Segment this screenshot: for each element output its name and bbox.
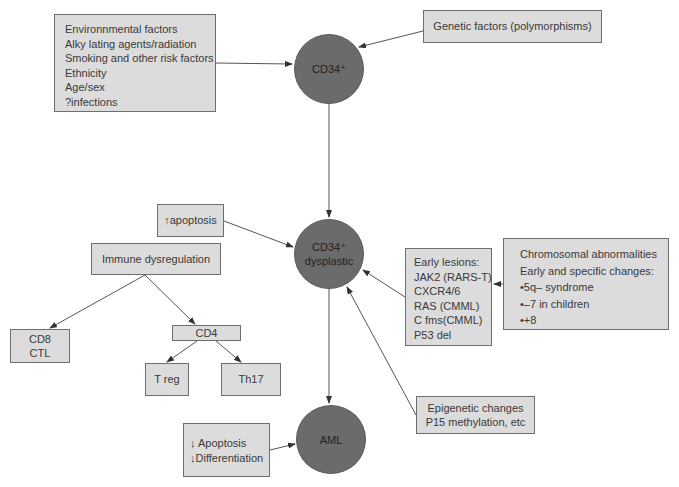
- early-line-1: Early lesions:: [414, 255, 491, 270]
- aml-node: AML: [296, 405, 366, 474]
- env-line-3: Smoking and other risk factors: [65, 51, 215, 66]
- chromosomal-abnormalities-box: Chromosomal abnormalities Early and spec…: [503, 238, 669, 330]
- aml-label: AML: [320, 433, 343, 447]
- th17-label: Th17: [238, 372, 263, 387]
- cd34-label: CD34⁺: [312, 62, 346, 76]
- early-lesions-box: Early lesions: JAK2 (RARS-T) CXCR4/6 RAS…: [405, 248, 492, 346]
- genetic-factors-box: Genetic factors (polymorphisms): [423, 10, 602, 43]
- env-line-2: Alky lating agents/radiation: [65, 37, 215, 52]
- th17-box: Th17: [221, 363, 281, 396]
- increased-apoptosis-label: ↑apoptosis: [164, 213, 217, 228]
- chrom-line-3: •5q– syndrome: [520, 279, 668, 296]
- cd4-label: CD4: [195, 326, 217, 341]
- cd8-ctl-box: CD8 CTL: [10, 329, 70, 363]
- env-line-6: ?infections: [65, 95, 215, 110]
- cd4-box: CD4: [172, 325, 241, 341]
- epi-line-2: P15 methylation, etc: [426, 415, 526, 430]
- cd8-line-1: CD8: [29, 332, 51, 347]
- dec-line-2: ↓Differentiation: [190, 451, 269, 466]
- immune-dysregulation-label: Immune dysregulation: [102, 252, 210, 267]
- increased-apoptosis-box: ↑apoptosis: [157, 204, 224, 237]
- early-line-4: RAS (CMML): [414, 299, 491, 314]
- env-line-5: Age/sex: [65, 80, 215, 95]
- dec-line-1: ↓ Apoptosis: [190, 436, 269, 451]
- environmental-factors-box: Environnmental factors Alky lating agent…: [54, 14, 216, 112]
- chrom-line-2: Early and specific changes:: [520, 263, 668, 280]
- chrom-line-5: •+8: [520, 312, 668, 329]
- treg-box: T reg: [145, 363, 189, 396]
- early-line-5: C fms(CMML): [414, 313, 491, 328]
- cd8-line-2: CTL: [30, 346, 51, 361]
- chrom-line-4: •–7 in children: [520, 296, 668, 313]
- env-line-4: Ethnicity: [65, 66, 215, 81]
- treg-label: T reg: [154, 372, 179, 387]
- decreased-apoptosis-differentiation-box: ↓ Apoptosis ↓Differentiation: [183, 423, 270, 477]
- early-line-6: P53 del: [414, 328, 491, 343]
- chrom-line-1: Chromosomal abnormalities: [520, 246, 668, 263]
- cd34-dysplastic-line-2: dysplastic: [305, 254, 353, 268]
- cd34-node: CD34⁺: [294, 34, 364, 104]
- genetic-label: Genetic factors (polymorphisms): [433, 19, 591, 34]
- early-line-2: JAK2 (RARS-T): [414, 270, 491, 285]
- epi-line-1: Epigenetic changes: [427, 401, 523, 416]
- cd34-dysplastic-node: CD34⁺ dysplastic: [294, 219, 364, 289]
- env-line-1: Environnmental factors: [65, 22, 215, 37]
- early-line-3: CXCR4/6: [414, 284, 491, 299]
- immune-dysregulation-box: Immune dysregulation: [91, 243, 221, 275]
- cd34-dysplastic-line-1: CD34⁺: [312, 240, 346, 254]
- epigenetic-changes-box: Epigenetic changes P15 methylation, etc: [416, 396, 535, 434]
